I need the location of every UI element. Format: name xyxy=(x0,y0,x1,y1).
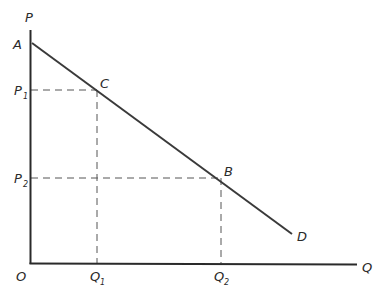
guide-lines xyxy=(31,90,221,263)
svg-text:Q: Q xyxy=(214,269,224,284)
point-c-label: C xyxy=(100,76,110,91)
svg-text:P: P xyxy=(14,83,22,98)
x-axis xyxy=(30,264,358,265)
demand-curve-line xyxy=(32,43,292,234)
point-b-label: B xyxy=(224,164,233,179)
svg-text:P: P xyxy=(14,171,22,186)
demand-diagram: P A C B D Q O P 1 P 2 Q 1 Q 2 xyxy=(0,0,378,291)
svg-text:Q: Q xyxy=(90,269,100,284)
y-axis-label: P xyxy=(25,10,33,25)
subscript: 2 xyxy=(224,278,229,287)
origin-label: O xyxy=(16,269,26,284)
price-label-p2: P 2 xyxy=(14,171,28,189)
qty-label-q2: Q 2 xyxy=(214,269,229,287)
price-label-p1: P 1 xyxy=(14,83,28,101)
subscript: 2 xyxy=(23,180,28,189)
subscript: 1 xyxy=(100,278,105,287)
qty-label-q1: Q 1 xyxy=(90,269,105,287)
curve-start-label: A xyxy=(12,37,22,52)
subscript: 1 xyxy=(23,92,28,101)
curve-end-label: D xyxy=(297,229,307,244)
x-axis-label: Q xyxy=(362,260,372,275)
